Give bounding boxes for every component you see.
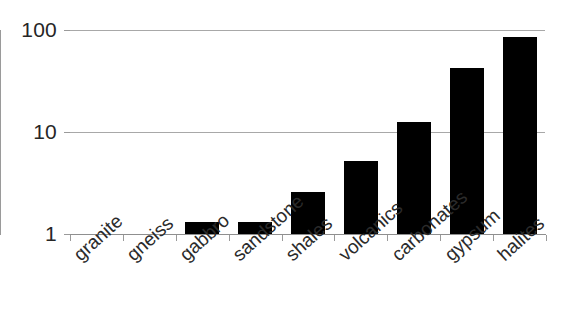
x-tick-mark-1 xyxy=(123,235,124,241)
y-axis-tick-labels: 100 10 1 xyxy=(0,0,57,335)
bar-halites xyxy=(503,37,537,234)
x-tick-mark-5 xyxy=(334,235,335,241)
y-tick-label-1: 1 xyxy=(0,223,57,244)
x-tick-mark-end xyxy=(546,235,547,241)
x-tick-mark-2 xyxy=(176,235,177,241)
log-bar-chart: 100 10 1 granitegneissgabbrosandstonesha… xyxy=(0,0,569,335)
x-tick-mark-7 xyxy=(440,235,441,241)
y-axis-line xyxy=(0,30,1,235)
x-tick-mark-4 xyxy=(282,235,283,241)
y-tick-label-10: 10 xyxy=(0,121,57,142)
y-tick-label-100: 100 xyxy=(0,19,57,40)
x-tick-mark-3 xyxy=(229,235,230,241)
x-tick-mark-6 xyxy=(387,235,388,241)
x-tick-mark-8 xyxy=(493,235,494,241)
x-tick-mark-0 xyxy=(70,235,71,241)
bars-layer xyxy=(70,30,546,234)
